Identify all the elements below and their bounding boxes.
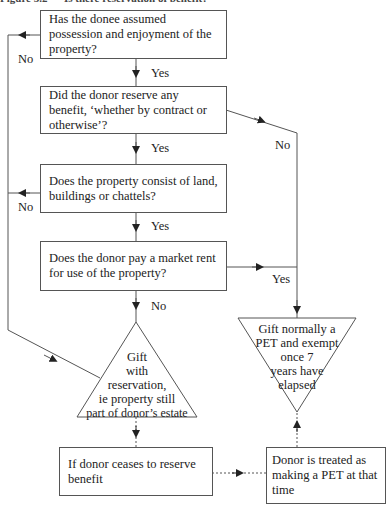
label-q3-no: No (18, 200, 33, 215)
label-q2-yes: Yes (151, 141, 169, 156)
question-reserve-benefit-box: Did the donor reserve any benefit, ‘whet… (40, 86, 227, 134)
tri-line: with (77, 364, 197, 378)
label-q4-no: No (151, 299, 166, 314)
question-market-rent-box: Does the donor pay a market rent for use… (40, 241, 227, 291)
reservation-triangle-text: Gift with reservation, ie property still… (77, 350, 197, 420)
tri-line: years have (240, 364, 354, 378)
label-q1-no: No (18, 52, 33, 67)
question-possession-box: Has the donee assumed possession and enj… (40, 10, 227, 59)
tri-line: once 7 (240, 350, 354, 364)
question-market-rent-text: Does the donor pay a market rent for use… (49, 251, 218, 281)
tri-line: Gift (77, 350, 197, 364)
ceases-benefit-box: If donor ceases to reserve benefit (59, 447, 213, 496)
label-q2-no: No (275, 138, 290, 153)
label-q3-yes: Yes (151, 219, 169, 234)
question-reserve-benefit-text: Did the donor reserve any benefit, ‘whet… (49, 88, 218, 133)
tri-line: elapsed (240, 378, 354, 392)
label-q1-yes: Yes (151, 66, 169, 81)
question-possession-text: Has the donee assumed possession and enj… (49, 12, 218, 57)
tri-line: PET and exempt (240, 336, 354, 350)
tri-line: Gift normally a (240, 322, 354, 336)
question-property-type-box: Does the property consist of land, build… (40, 164, 227, 213)
question-property-type-text: Does the property consist of land, build… (49, 174, 218, 204)
treated-as-pet-box: Donor is treated as making a PET at that… (266, 447, 386, 504)
treated-as-pet-text: Donor is treated as making a PET at that… (272, 453, 380, 498)
tri-line: reservation, (77, 378, 197, 392)
label-q4-yes: Yes (272, 272, 290, 287)
tri-line: ie property still (77, 392, 197, 406)
tri-line: part of donor’s estate (77, 406, 197, 420)
pet-triangle-text: Gift normally a PET and exempt once 7 ye… (240, 322, 354, 392)
ceases-benefit-text: If donor ceases to reserve benefit (68, 457, 204, 487)
